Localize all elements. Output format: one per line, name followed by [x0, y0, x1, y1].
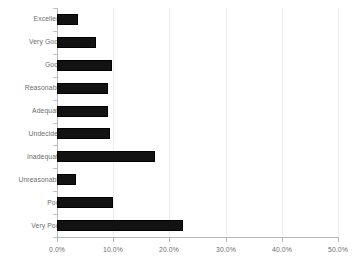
x-axis-tick-label: 0.0%	[27, 245, 87, 254]
x-axis-tick	[282, 238, 283, 242]
x-axis-tick-label: 20.0%	[139, 245, 199, 254]
gridline	[282, 8, 283, 237]
gridline	[338, 8, 339, 237]
bar	[57, 106, 108, 117]
x-axis-tick-label: 30.0%	[196, 245, 256, 254]
bar	[57, 174, 76, 185]
y-axis-tick	[53, 168, 57, 169]
bar	[57, 197, 113, 208]
x-axis-tick-label: 50.0%	[308, 245, 360, 254]
y-axis-tick	[53, 54, 57, 55]
bar	[57, 60, 112, 71]
y-axis-tick	[53, 100, 57, 101]
y-axis-tick	[53, 191, 57, 192]
y-axis-tick	[53, 214, 57, 215]
x-axis-line	[57, 237, 339, 238]
bar	[57, 220, 183, 231]
y-axis-tick	[53, 8, 57, 9]
x-axis-tick	[169, 238, 170, 242]
y-axis-tick	[53, 77, 57, 78]
bar	[57, 37, 96, 48]
x-axis-tick	[57, 238, 58, 242]
y-axis-tick-label: Unreasonable	[18, 176, 62, 184]
bar	[57, 128, 110, 139]
x-axis-tick	[226, 238, 227, 242]
x-axis-tick-label: 10.0%	[83, 245, 143, 254]
x-axis-tick-label: 40.0%	[252, 245, 312, 254]
gridline	[169, 8, 170, 237]
y-axis-tick	[53, 145, 57, 146]
bar	[57, 151, 155, 162]
y-axis-tick	[53, 31, 57, 32]
gridline	[113, 8, 114, 237]
bar-chart: ExcellentVery GoodGoodReasonableAdequate…	[0, 0, 360, 263]
gridline	[226, 8, 227, 237]
bar	[57, 14, 78, 25]
x-axis-tick	[113, 238, 114, 242]
y-axis-tick	[53, 123, 57, 124]
x-axis-tick	[338, 238, 339, 242]
bar	[57, 83, 108, 94]
